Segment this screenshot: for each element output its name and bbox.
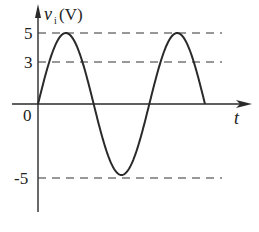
y-axis-label: v [44, 4, 52, 24]
y-axis-unit: (V) [59, 5, 83, 24]
x-axis-label: t [234, 108, 240, 128]
tick-label-3: 3 [24, 53, 33, 72]
y-axis-subscript: i [54, 15, 57, 26]
y-axis-arrow-icon [35, 4, 41, 18]
tick-label-neg5: -5 [14, 169, 28, 188]
tick-label-5: 5 [24, 24, 33, 43]
voltage-waveform-diagram: v i (V) 5 3 -5 0 t [0, 0, 259, 232]
origin-label: 0 [23, 106, 32, 125]
